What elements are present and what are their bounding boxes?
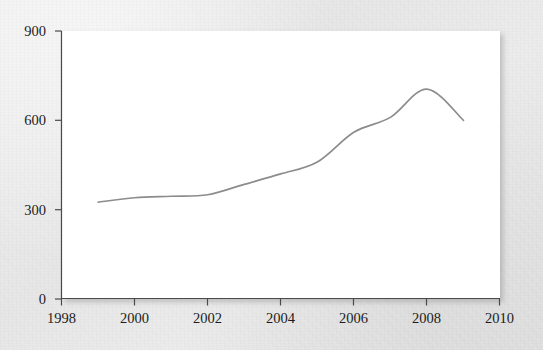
y-tick-label-900: 900 — [14, 24, 46, 39]
y-tick-label-0: 0 — [14, 292, 46, 307]
y-tick-label-600: 600 — [14, 113, 46, 128]
chart-figure: 900 600 300 0 1998 2000 2002 2004 2006 2… — [0, 0, 543, 350]
x-tick-label-2010: 2010 — [485, 311, 514, 326]
x-tick-label-2006: 2006 — [339, 311, 368, 326]
x-tick-label-2000: 2000 — [120, 311, 149, 326]
y-axis-ticks — [55, 31, 62, 299]
line-chart-svg — [0, 0, 543, 350]
x-tick-label-2004: 2004 — [266, 311, 295, 326]
data-series-line — [98, 89, 463, 202]
y-tick-label-300: 300 — [14, 202, 46, 217]
x-axis-ticks — [62, 299, 500, 306]
x-tick-label-2002: 2002 — [193, 311, 222, 326]
x-tick-label-1998: 1998 — [47, 311, 76, 326]
x-tick-label-2008: 2008 — [412, 311, 441, 326]
